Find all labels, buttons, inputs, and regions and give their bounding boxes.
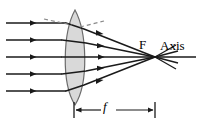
ray-arrowhead-3: [30, 54, 37, 60]
diverging-ray-5: [155, 57, 176, 69]
diverging-ray-4: [155, 57, 178, 63]
focal-point-label: F: [139, 38, 146, 51]
ray-arrowhead-2: [30, 37, 37, 43]
dashed-line-right: [80, 21, 104, 27]
ray-arrowhead-5: [30, 88, 37, 94]
refracted-arrowhead-4: [97, 66, 105, 71]
refracted-arrowhead-2: [97, 43, 105, 48]
ray-arrowhead-1: [30, 20, 37, 26]
dashed-line-left: [44, 19, 72, 25]
refracted-arrowhead-1: [96, 30, 104, 36]
ray-arrowhead-4: [30, 71, 37, 77]
focal-length-dimension: [74, 102, 155, 118]
axis-label: Axis: [160, 39, 185, 52]
refracted-arrowhead-3: [98, 54, 105, 60]
focal-length-label: f: [103, 100, 107, 113]
incoming-ray-arrowheads: [30, 20, 37, 94]
diagram-canvas: [0, 0, 202, 123]
refracted-arrowhead-5: [96, 78, 104, 84]
lens-ray-diagram: F Axis f: [0, 0, 202, 123]
